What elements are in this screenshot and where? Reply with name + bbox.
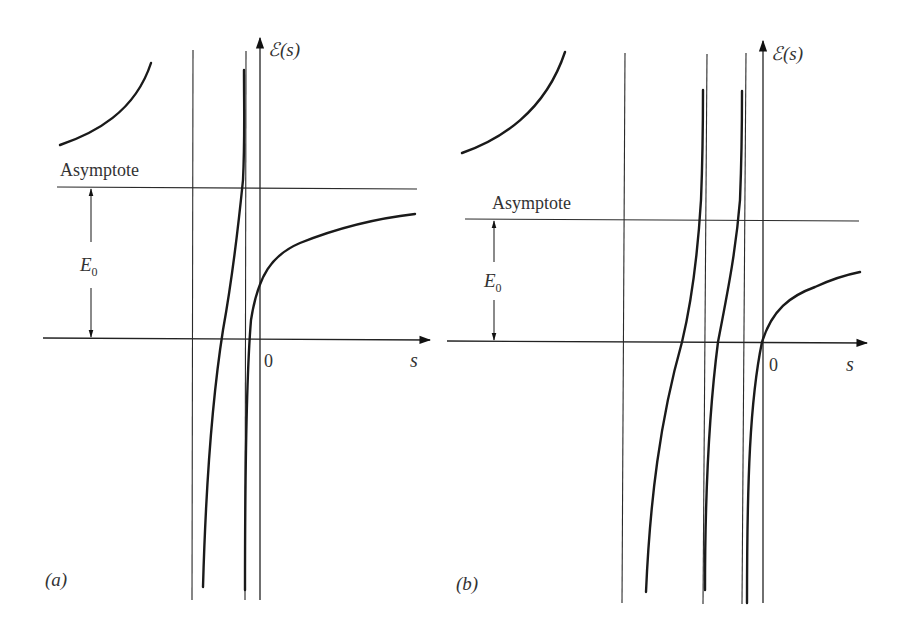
panel-label-a: (a) — [45, 569, 67, 591]
origin-label: 0 — [769, 355, 778, 375]
branch-right — [245, 214, 415, 590]
branch-middle — [203, 70, 244, 587]
origin-label: 0 — [264, 351, 273, 371]
branch-right — [747, 272, 860, 603]
pole-line — [192, 50, 193, 600]
s-axis — [447, 341, 867, 343]
asymptote-line — [465, 219, 859, 221]
e0-label: E0 — [483, 270, 502, 295]
s-axis-label: s — [846, 353, 854, 375]
s-axis-label: s — [410, 349, 418, 371]
pole-line — [622, 53, 625, 603]
branch-upper-left — [60, 63, 151, 145]
panel-label-b: (b) — [456, 573, 478, 595]
s-axis — [43, 338, 430, 340]
branch-upper-left — [462, 52, 565, 153]
energy-function-figure: Asymptote E0 ℰ(s) 0 s (a) Asymptote E0 ℰ… — [0, 0, 908, 643]
asymptote-label: Asymptote — [60, 160, 139, 180]
e0-label: E0 — [79, 254, 98, 279]
asymptote-line — [57, 187, 417, 189]
energy-axis-label: ℰ(s) — [771, 43, 803, 65]
branch-2 — [705, 91, 742, 590]
panel-b: Asymptote E0 ℰ(s) 0 s (b) — [447, 41, 867, 604]
asymptote-label: Asymptote — [492, 193, 571, 213]
branch-1 — [646, 90, 703, 592]
panel-a: Asymptote E0 ℰ(s) 0 s (a) — [43, 38, 430, 600]
energy-axis-label: ℰ(s) — [268, 39, 300, 61]
